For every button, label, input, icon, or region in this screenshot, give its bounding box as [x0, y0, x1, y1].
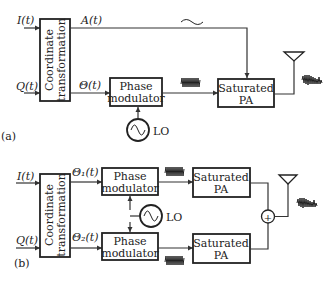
- constant-envelope-waveform-icon: [165, 167, 184, 176]
- constant-envelope-waveform-icon: [165, 256, 184, 265]
- input-i-label: I(t): [16, 14, 34, 27]
- input-q-label: Q(t): [16, 80, 38, 93]
- antenna-icon: [284, 52, 304, 61]
- theta2-label: Θ₂(t): [72, 231, 98, 244]
- pa-to-antenna-line: [274, 60, 294, 94]
- pa-bottom-to-combiner-line: [250, 223, 268, 249]
- pa-top-line2: PA: [214, 183, 229, 196]
- phase-modulator-line2: modulator: [107, 92, 165, 105]
- modulated-waveform-icon: [302, 75, 322, 85]
- panel-b-label: (b): [14, 257, 30, 270]
- panel-b: I(t) Q(t) Coordinate transformation Θ₁(t…: [14, 166, 317, 270]
- outphasing-diagram: I(t) Q(t) Coordinate transformation A(t)…: [0, 0, 335, 286]
- constant-envelope-waveform-icon: [181, 78, 200, 87]
- pa-line2: PA: [239, 94, 254, 107]
- input-i-label: I(t): [16, 170, 34, 183]
- lo-label: LO: [166, 211, 182, 224]
- combiner-to-antenna-line: [275, 183, 289, 217]
- coord-block-line2: transformation: [55, 173, 68, 257]
- amplitude-path: [70, 28, 247, 78]
- theta1-label: Θ₁(t): [72, 166, 98, 179]
- pm-bottom-line2: modulator: [101, 247, 159, 260]
- pa-top-to-combiner-line: [250, 183, 268, 210]
- lo-label: LO: [153, 125, 169, 138]
- coord-block-line2: transformation: [55, 18, 68, 102]
- amplitude-label: A(t): [80, 14, 102, 27]
- pm-top-line2: modulator: [101, 182, 159, 195]
- panel-a: I(t) Q(t) Coordinate transformation A(t)…: [1, 14, 322, 143]
- antenna-icon: [279, 175, 297, 184]
- combiner-plus-symbol: +: [264, 212, 272, 223]
- phase-label: Θ(t): [79, 79, 101, 92]
- tilde-waveform-icon: [181, 20, 203, 25]
- panel-a-label: (a): [1, 130, 16, 143]
- modulated-waveform-icon: [297, 198, 317, 208]
- input-q-label: Q(t): [16, 234, 38, 247]
- pa-bottom-line2: PA: [214, 249, 229, 262]
